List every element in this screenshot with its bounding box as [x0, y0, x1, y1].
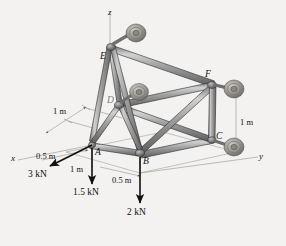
dimension-left-1m: 1 m: [53, 107, 66, 116]
force-label-2kN: 2 kN: [127, 208, 146, 218]
axis-label-x: x: [11, 154, 15, 163]
joint-label-F: F: [205, 70, 211, 80]
dimension-x-0_5m: 0.5 m: [36, 152, 55, 161]
joint-label-B: B: [143, 157, 149, 167]
joint-label-D: D: [107, 96, 114, 106]
joint-label-C: C: [216, 132, 222, 142]
axis-label-y: y: [259, 152, 263, 161]
joint-label-A: A: [95, 148, 101, 158]
joint-label-E: E: [100, 52, 106, 62]
force-label-1_5kN: 1.5 kN: [73, 188, 99, 198]
member-F-C: [209, 85, 217, 140]
dimension-b-0_5m: 0.5 m: [112, 176, 131, 185]
axis-label-z: z: [108, 8, 112, 17]
dimension-right-1m: 1 m: [240, 118, 253, 127]
dimension-a-1m: 1 m: [70, 165, 83, 174]
force-label-3kN: 3 kN: [28, 170, 47, 180]
